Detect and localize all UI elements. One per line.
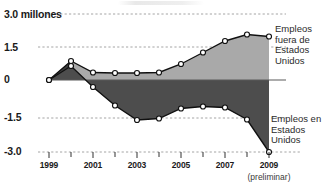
x-axis-sublabel-2009-preliminary: (preliminar) <box>248 172 291 182</box>
x-axis-label-2007: 2007 <box>216 160 235 170</box>
y-axis-label-3.0: 3.0 millones <box>4 8 62 20</box>
y-axis-label-1.5: 1.5 <box>4 41 18 53</box>
x-axis-label-1999: 1999 <box>40 160 59 170</box>
x-axis-label-2003: 2003 <box>128 160 147 170</box>
y-axis-label--3.0: -3.0 <box>4 145 21 157</box>
legend-label-in-us: Empleos en Estados Unidos <box>271 114 321 146</box>
x-axis-label-2001: 2001 <box>84 160 103 170</box>
x-axis-label-2009: 2009 <box>260 160 279 170</box>
legend-label-outside-us: Empleos fuera de Estados Unidos <box>275 24 312 66</box>
chart-container: 3.0 millones 1.5 0 -1.5 -3.0 1999 2001 2… <box>0 0 328 185</box>
y-axis-label--1.5: -1.5 <box>4 111 21 123</box>
y-axis-label-0: 0 <box>4 73 10 85</box>
x-axis-ticks <box>49 152 269 158</box>
x-axis-label-2005: 2005 <box>172 160 191 170</box>
